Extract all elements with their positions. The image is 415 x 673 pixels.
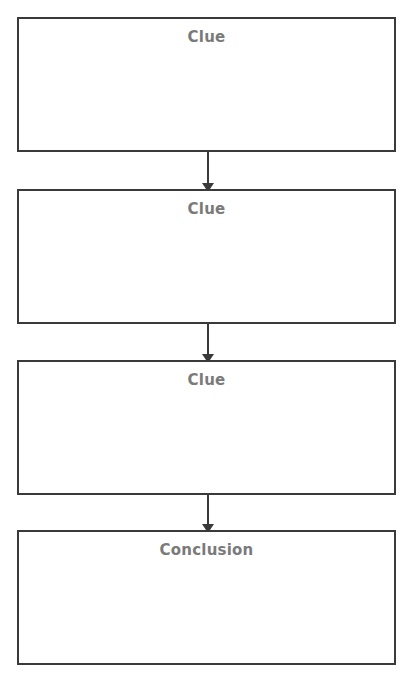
clue-box-2-title: Clue bbox=[19, 200, 394, 218]
conclusion-box-title: Conclusion bbox=[19, 541, 394, 559]
conclusion-box: Conclusion bbox=[17, 530, 396, 665]
clue-box-3-title: Clue bbox=[19, 371, 394, 389]
arrow-clue1-to-clue2 bbox=[207, 152, 209, 191]
arrow-clue3-to-conclusion bbox=[207, 495, 209, 532]
clue-box-2: Clue bbox=[17, 189, 396, 324]
clue-box-3: Clue bbox=[17, 360, 396, 495]
clue-box-1: Clue bbox=[17, 17, 396, 152]
arrow-clue2-to-clue3 bbox=[207, 324, 209, 362]
clue-box-1-title: Clue bbox=[19, 28, 394, 46]
